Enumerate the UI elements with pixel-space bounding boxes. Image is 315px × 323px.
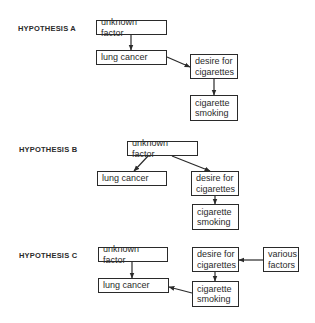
node-cigarette-smoking: cigarette smoking	[192, 281, 239, 307]
node-unknown-factor: unknown factor	[98, 247, 168, 262]
node-cigarette-smoking: cigarette smoking	[190, 95, 238, 121]
node-lung-cancer: lung cancer	[97, 171, 167, 186]
node-unknown-factor: unknown factor	[96, 20, 167, 35]
node-cigarette-smoking: cigarette smoking	[192, 204, 239, 230]
node-desire-for-cigarettes: desire for cigarettes	[192, 247, 239, 272]
arrows-layer	[0, 0, 315, 323]
hypothesis-label: HYPOTHESIS A	[18, 24, 76, 33]
node-desire-for-cigarettes: desire for cigarettes	[190, 54, 238, 79]
node-various-factors: various factors	[263, 247, 299, 272]
arrow-icon	[167, 57, 190, 67]
node-unknown-factor: unknown factor	[127, 141, 198, 156]
arrow-icon	[169, 287, 192, 293]
node-lung-cancer: lung cancer	[98, 278, 169, 293]
node-desire-for-cigarettes: desire for cigarettes	[191, 171, 239, 196]
hypothesis-label: HYPOTHESIS B	[19, 145, 77, 154]
node-lung-cancer: lung cancer	[96, 50, 167, 65]
hypothesis-label: HYPOTHESIS C	[19, 251, 77, 260]
